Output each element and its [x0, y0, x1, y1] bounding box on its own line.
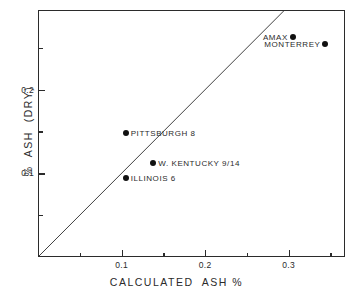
y-axis-tick-minor	[38, 215, 43, 216]
x-axis-tick-minor	[330, 253, 331, 258]
scatter-chart-figure: 0.10.20.30.10.2 AMAXMONTERREYPITTSBURGH …	[0, 0, 353, 295]
x-axis-tick-label: 0.3	[282, 260, 295, 270]
x-axis-tick-major	[289, 250, 290, 257]
x-axis-tick-label: 0.1	[115, 260, 128, 270]
x-axis-tick-label: 0.2	[199, 260, 212, 270]
y-axis-tick-major	[38, 90, 45, 91]
data-point-label: MONTERREY	[264, 40, 320, 49]
y-axis-tick-minor	[38, 131, 43, 132]
data-point-label: PITTSBURGH 8	[131, 129, 196, 138]
x-axis-tick-minor	[247, 253, 248, 258]
data-point-marker	[123, 130, 129, 136]
x-axis-tick-minor	[80, 253, 81, 258]
data-point-label: W. KENTUCKY 9/14	[158, 159, 240, 168]
data-point-label: ILLINOIS 6	[131, 174, 176, 183]
y-axis-tick-minor	[38, 48, 43, 49]
x-axis-tick-major	[205, 250, 206, 257]
x-axis-title: CALCULATED ASH %	[0, 276, 353, 288]
y-axis-tick-major	[38, 173, 45, 174]
x-axis-tick-major	[122, 250, 123, 257]
x-axis-tick-minor	[163, 253, 164, 258]
y-axis-title: % ASH (DRY)	[22, 51, 34, 211]
